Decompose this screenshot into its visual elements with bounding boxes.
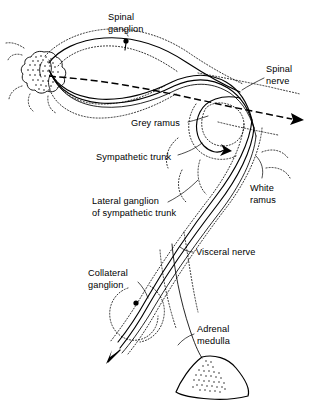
label-spinal-ganglion-line2: ganglion [108,24,144,36]
collateral-ganglion-soma [133,300,138,305]
label-adrenal-medulla: Adrenal medulla [197,324,230,347]
label-grey-ramus: Grey ramus [131,118,180,130]
label-visceral-nerve: Visceral nerve [196,247,255,259]
label-grey-ramus-line1: Grey ramus [131,118,180,130]
spinal-nerve-arrowhead [290,113,304,125]
label-collateral-ganglion: Collateral ganglion [88,268,128,291]
label-sympathetic-trunk: Sympathetic trunk [96,152,171,164]
label-lateral-ganglion-line2: of sympathetic trunk [92,208,176,220]
label-white-ramus: White ramus [250,183,276,206]
label-adrenal-medulla-line2: medulla [197,336,230,348]
label-white-ramus-line1: White [250,183,276,195]
label-lateral-ganglion-line1: Lateral ganglion [92,196,176,208]
label-spinal-nerve-line2: nerve [266,76,292,88]
anatomy-figure: Spinal ganglion Spinal nerve Grey ramus … [0,0,316,404]
label-white-ramus-line2: ramus [250,195,276,207]
label-sympathetic-trunk-line1: Sympathetic trunk [96,152,171,164]
dorsal-root-structure [45,29,243,118]
adrenal-stipple [192,360,225,392]
grey-matter-stipple [27,55,59,91]
label-spinal-nerve-line1: Spinal [266,64,292,76]
spinal-cord-structure [6,43,66,113]
label-collateral-ganglion-line2: ganglion [88,280,128,292]
label-spinal-ganglion: Spinal ganglion [108,12,144,35]
adrenal-medulla-organ [176,356,249,399]
label-collateral-ganglion-line1: Collateral [88,268,128,280]
label-visceral-nerve-line1: Visceral nerve [196,247,255,259]
leader-lines [122,30,264,345]
label-adrenal-medulla-line1: Adrenal [197,324,230,336]
label-spinal-ganglion-line1: Spinal [108,12,144,24]
label-spinal-nerve: Spinal nerve [266,64,292,87]
label-lateral-ganglion: Lateral ganglion of sympathetic trunk [92,196,176,219]
